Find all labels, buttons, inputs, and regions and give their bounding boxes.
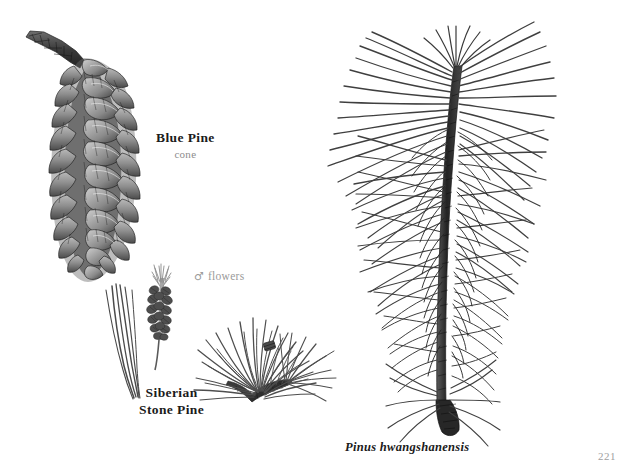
cone-scales: [49, 58, 140, 282]
caption-siberian-line2: Stone Pine: [139, 402, 204, 419]
caption-blue-pine-subtitle: cone: [156, 148, 215, 160]
illustration-needle-bundle: [106, 284, 140, 399]
plate-page: Blue Pine cone ♂ flowers Siberian Stone …: [0, 0, 635, 473]
caption-male-flowers-label: flowers: [208, 270, 245, 282]
male-symbol-icon: ♂: [194, 270, 204, 283]
caption-siberian-stone-pine: Siberian Stone Pine: [139, 385, 204, 419]
illustration-siberian-stone-pine-spray: [194, 318, 336, 402]
page-number: 221: [598, 450, 616, 462]
caption-pinus-label: Pinus hwangshanensis: [345, 440, 469, 454]
caption-pinus-hwangshanensis: Pinus hwangshanensis: [345, 437, 469, 455]
illustration-male-pollen-cones: [145, 264, 173, 370]
caption-blue-pine: Blue Pine cone: [156, 130, 215, 160]
illustration-blue-pine-cone: [26, 31, 140, 282]
caption-blue-pine-title: Blue Pine: [156, 130, 215, 146]
caption-male-flowers: ♂ flowers: [194, 266, 244, 284]
botanical-plate-illustrations: [0, 0, 635, 473]
illustration-pinus-hwangshanensis-branch: [328, 22, 556, 446]
caption-siberian-line1: Siberian: [139, 385, 204, 402]
